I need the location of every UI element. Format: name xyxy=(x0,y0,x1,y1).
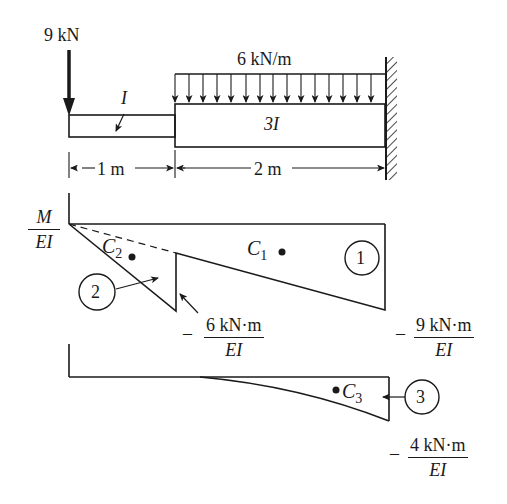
centroid-c3-sub: 3 xyxy=(355,391,362,406)
centroid-c2-sub: 2 xyxy=(115,246,122,261)
moment-axis-label: M EI xyxy=(28,208,60,251)
value-end-fraction: 9 kN·m EI xyxy=(414,316,474,359)
value-end-den: EI xyxy=(414,338,474,359)
value-end-sign: – xyxy=(396,324,405,342)
value-mid-num: 6 kN·m xyxy=(204,316,264,338)
centroid-c1-dot xyxy=(279,249,286,256)
value-c3-den: EI xyxy=(408,458,468,479)
region-1-label: 1 xyxy=(356,249,365,267)
beam-segment-3I xyxy=(175,104,385,147)
value-c3-fraction: 4 kN·m EI xyxy=(408,436,468,479)
centroid-c3-label: C3 xyxy=(342,381,362,406)
region-2-label: 2 xyxy=(91,283,100,301)
value-c3-sign: – xyxy=(390,444,399,462)
centroid-c1-letter: C xyxy=(247,237,260,259)
value-mid-sign: – xyxy=(183,324,192,342)
distributed-load-label: 6 kN/m xyxy=(237,50,292,68)
centroid-c2-letter: C xyxy=(102,235,115,257)
point-load-label: 9 kN xyxy=(44,26,80,44)
value-end-num: 9 kN·m xyxy=(414,316,474,338)
inertia-pointer-arrow xyxy=(116,114,124,131)
region-3-label: 3 xyxy=(416,388,425,406)
fixed-wall-support xyxy=(386,57,397,180)
centroid-c2-dot xyxy=(129,254,136,261)
value-c3-num: 4 kN·m xyxy=(408,436,468,458)
centroid-c1-label: C1 xyxy=(247,238,267,263)
value-mid-fraction: 6 kN·m EI xyxy=(204,316,264,359)
value-mid-den: EI xyxy=(204,338,264,359)
centroid-c3-letter: C xyxy=(342,380,355,402)
moment-axis-num: M xyxy=(28,208,60,230)
inertia-right-label: 3I xyxy=(264,115,279,133)
distributed-load xyxy=(175,74,385,102)
dimension-left-label: 1 m xyxy=(97,160,125,178)
dimension-right-label: 2 m xyxy=(254,160,282,178)
value-6-pointer xyxy=(180,294,198,313)
moment-axis-den: EI xyxy=(28,230,60,251)
centroid-c1-sub: 1 xyxy=(260,248,267,263)
inertia-left-label: I xyxy=(121,89,127,107)
point-load-arrow xyxy=(63,50,75,116)
centroid-c2-label: C2 xyxy=(102,236,122,261)
centroid-c3-dot xyxy=(333,387,340,394)
